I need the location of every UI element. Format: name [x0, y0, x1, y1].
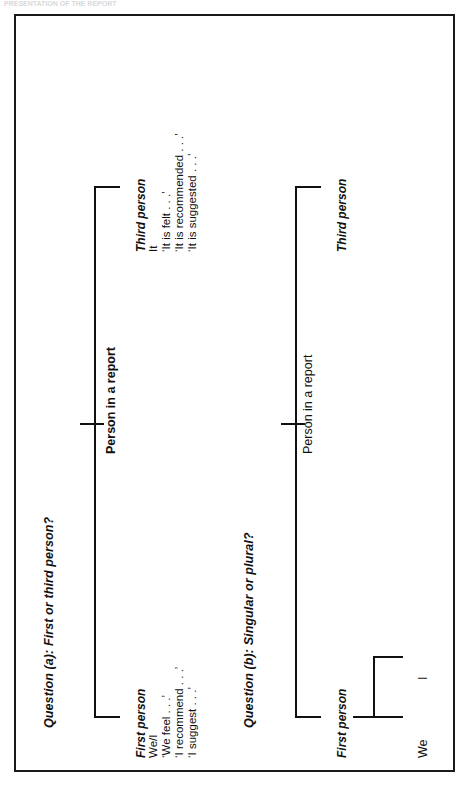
question-a-root-stem — [80, 423, 104, 425]
question-a-third-person-item-0: It — [147, 246, 159, 252]
question-a-third-person-item-2: ‘It is recommended . . .’ — [173, 133, 185, 252]
question-a-third-person-item-1: ‘It is felt . . .’ — [160, 191, 172, 252]
question-a-third-person-head: Third person — [134, 179, 148, 252]
question-a-root-label: Person in a report — [104, 347, 118, 454]
question-b-leaf-arm-i — [373, 656, 403, 658]
question-b-root-label: Person in a report — [301, 355, 315, 454]
question-a-first-person-item-0: We/I — [147, 735, 159, 758]
question-a-first-person-item-2: ‘I recommend . . .’ — [173, 667, 185, 758]
question-b-first-person-subspine — [373, 656, 375, 718]
question-b-leaf-arm-we — [373, 716, 403, 718]
question-a-branch-arm-first-person — [94, 716, 120, 718]
question-a-first-person-head: First person — [134, 689, 148, 758]
question-a-branch-arm-third-person — [94, 186, 120, 188]
question-b-first-person-head: First person — [335, 689, 349, 758]
question-b-third-person-head: Third person — [335, 179, 349, 252]
question-b-first-person-stem — [353, 716, 375, 718]
figure-frame: Question (a): First or third person? Per… — [14, 14, 455, 772]
question-b-spine — [295, 186, 297, 717]
question-a-spine — [94, 186, 96, 717]
question-a-label: Question (a): First or third person? — [42, 517, 56, 728]
question-b-root-stem — [281, 423, 305, 425]
question-b-label: Question (b): Singular or plural? — [242, 532, 256, 728]
question-b-branch-arm-first-person — [295, 716, 321, 718]
question-b-branch-arm-third-person — [295, 186, 321, 188]
question-b-leaf-i: I — [416, 677, 430, 680]
question-a-third-person-item-3: ‘It is suggested . . .’ — [186, 154, 198, 252]
running-head: PRESENTATION OF THE REPORT — [4, 0, 194, 7]
question-a-first-person-item-3: ‘I suggest . . .’ — [186, 687, 198, 758]
question-a-first-person-item-1: ‘We feel . . .’ — [160, 695, 172, 758]
question-b-leaf-we: We — [416, 739, 430, 758]
